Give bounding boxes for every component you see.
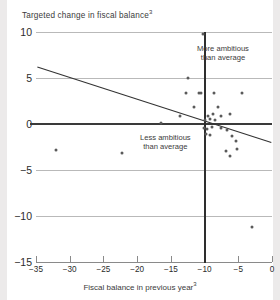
data-point [235, 147, 238, 150]
x-tick-label--30: −30 [53, 265, 87, 274]
y-tick-label-0: 0 [2, 118, 32, 130]
zero-reference-line [30, 123, 272, 125]
gridline-y--10 [36, 216, 272, 217]
data-point [186, 77, 189, 80]
x-axis-line [36, 262, 272, 263]
x-tick-label--35: −35 [19, 265, 53, 274]
data-point [219, 126, 222, 129]
x-tick-label--15: −15 [154, 265, 188, 274]
annotation-more-line1: More ambitious [197, 44, 249, 53]
x-tick-label--25: −25 [86, 265, 120, 274]
data-point [229, 112, 232, 115]
y-tick-label--5: −5 [2, 164, 32, 176]
x-tick-label--20: −20 [120, 265, 154, 274]
y-tick-label--10: −10 [2, 210, 32, 222]
x-tick-mark-0 [272, 256, 273, 262]
x-tick-label--5: −5 [221, 265, 255, 274]
data-point [54, 148, 57, 151]
data-point [192, 105, 195, 108]
data-point [208, 118, 211, 121]
annotation-less-ambitious: Less ambitious than average [140, 133, 191, 152]
data-point [212, 112, 215, 115]
data-point [208, 134, 211, 137]
left-edge-band [0, 0, 7, 300]
data-point [230, 134, 233, 137]
data-point [217, 106, 220, 109]
data-point [200, 91, 203, 94]
data-point [240, 91, 243, 94]
gridline-y--5 [36, 170, 272, 171]
data-point [204, 133, 207, 136]
data-point [204, 119, 207, 122]
scatter-chart-figure: Targeted change in fiscal balance3 1050−… [0, 0, 280, 300]
annotation-less-line1: Less ambitious [140, 133, 191, 142]
data-point [225, 149, 228, 152]
data-point [206, 114, 209, 117]
data-point [210, 125, 213, 128]
data-point [178, 114, 181, 117]
data-point [220, 114, 223, 117]
data-point [206, 127, 209, 130]
gridline-y-10 [36, 32, 272, 33]
data-point [121, 152, 124, 155]
y-tick-label-5: 5 [2, 72, 32, 84]
right-edge-band [273, 0, 280, 300]
y-tick-label-10: 10 [2, 26, 32, 38]
data-point [184, 91, 187, 94]
gridline-y-5 [36, 78, 272, 79]
x-axis-title: Fiscal balance in previous year3 [0, 281, 280, 292]
annotation-less-line2: than average [140, 142, 191, 151]
data-point [214, 119, 217, 122]
data-point [160, 122, 163, 125]
data-point [201, 32, 204, 35]
annotation-more-line2: than average [197, 53, 249, 62]
x-tick-label--10: −10 [188, 265, 222, 274]
data-point [250, 226, 253, 229]
data-point [229, 155, 232, 158]
x-tick-label-0: 0 [255, 265, 280, 274]
chart-title: Targeted change in fiscal balance3 [22, 9, 152, 20]
data-point [226, 128, 229, 131]
average-vertical-reference-line [204, 32, 206, 263]
data-point [234, 140, 237, 143]
data-point [213, 91, 216, 94]
annotation-more-ambitious: More ambitious than average [197, 44, 249, 63]
